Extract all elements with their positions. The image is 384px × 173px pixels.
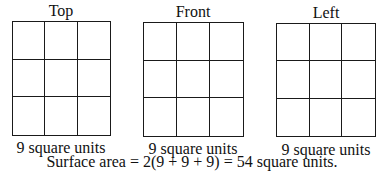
grid-left: [276, 23, 376, 137]
grid-cell: [210, 61, 243, 99]
grid-cell: [277, 99, 310, 136]
grid-cell: [342, 99, 375, 136]
grid-cell: [45, 97, 77, 135]
grid-cell: [144, 61, 177, 99]
grid-cell: [78, 97, 110, 135]
grid-cell: [342, 61, 375, 98]
grid-cell: [277, 24, 310, 61]
grid-cell: [78, 60, 110, 98]
grid-cell: [45, 22, 77, 60]
grid-top: [12, 21, 111, 136]
grid-cell: [78, 22, 110, 60]
grid-cell: [13, 97, 45, 135]
grid-cell: [177, 23, 210, 61]
grid-cell: [310, 24, 343, 61]
grid-cell: [210, 98, 243, 136]
grid-cell: [13, 60, 45, 98]
grid-cell: [177, 61, 210, 99]
view-title-left: Left: [276, 5, 376, 21]
grid-cell: [310, 61, 343, 98]
grid-front: [143, 22, 244, 137]
grid-cell: [210, 23, 243, 61]
grid-cell: [13, 22, 45, 60]
grid-cell: [177, 98, 210, 136]
grid-cell: [144, 98, 177, 136]
grid-cell: [144, 23, 177, 61]
grid-cell: [342, 24, 375, 61]
view-title-front: Front: [143, 4, 243, 20]
view-title-top: Top: [12, 3, 110, 19]
surface-area-summary: Surface area = 2(9 + 9 + 9) = 54 square …: [0, 154, 384, 170]
grid-cell: [45, 60, 77, 98]
grid-cell: [310, 99, 343, 136]
grid-cell: [277, 61, 310, 98]
